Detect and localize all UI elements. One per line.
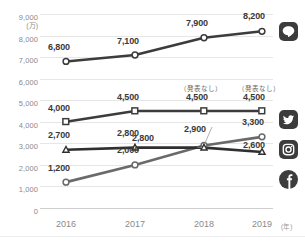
instagram-icon: [279, 140, 298, 159]
value-label-facebook-2019: 2,600: [243, 140, 265, 150]
marker-twitter-2019: [259, 108, 265, 114]
marker-instagram-2017: [132, 162, 138, 168]
y-axis-unit: (万): [4, 22, 38, 30]
marker-line-2017: [132, 52, 138, 58]
y-tick-5000: 5,000: [4, 100, 38, 108]
y-tick-6000: 6,000: [4, 79, 38, 87]
y-tick-3000: 3,000: [4, 143, 38, 151]
x-axis-unit: (年): [281, 221, 292, 231]
y-tick-1000: 1,000: [4, 186, 38, 194]
value-label-instagram-2017: 2,000: [117, 145, 139, 155]
y-tick-4000: 4,000: [4, 122, 38, 130]
y-tick-0: 0: [4, 208, 38, 216]
value-label-facebook-2016: 2,700: [48, 130, 70, 140]
y-tick-9000: 9,000: [4, 14, 38, 22]
marker-twitter-2016: [63, 119, 69, 125]
series-line-LINE: [66, 31, 262, 61]
x-tick-2016: 2016: [43, 219, 89, 229]
line-icon: [279, 22, 298, 41]
marker-line-2018: [201, 35, 207, 41]
callout-leader-facebook-2018: [197, 147, 202, 148]
value-label-line-2018: 7,900: [186, 18, 208, 28]
gridline-0: [40, 208, 273, 209]
marker-twitter-2018: [201, 108, 207, 114]
value-label-line-2016: 6,800: [48, 42, 70, 52]
value-label-instagram-2018: 2,900: [184, 124, 206, 134]
y-tick-7000: 7,000: [4, 57, 38, 65]
twitter-icon: [279, 110, 298, 129]
plot-area: [40, 14, 273, 208]
marker-instagram-2019: [259, 134, 265, 140]
y-tick-8000: 8,000: [4, 36, 38, 44]
value-label-line-2017: 7,100: [117, 36, 139, 46]
chart-container: 9,000 (万) 8,000 7,000 6,000 5,000 4,000 …: [0, 0, 305, 243]
value-label-facebook-2018: 2,800: [132, 133, 154, 143]
series-line-Facebook: [66, 148, 262, 152]
x-tick-2018: 2018: [181, 219, 227, 229]
value-label-instagram-2016: 1,200: [48, 163, 70, 173]
marker-twitter-2017: [132, 108, 138, 114]
series-line-Instagram: [66, 137, 262, 182]
marker-line-2016: [63, 59, 69, 65]
x-tick-2017: 2017: [112, 219, 158, 229]
marker-facebook-2016: [63, 147, 69, 153]
callout-leader-instagram-2018: [205, 127, 212, 143]
value-label-twitter-2019: 4,500: [243, 92, 265, 102]
value-label-instagram-2019: 3,300: [242, 117, 264, 127]
value-label-twitter-2017: 4,500: [117, 92, 139, 102]
marker-line-2019: [259, 28, 265, 34]
bottom-divider: [0, 236, 305, 237]
value-label-twitter-2016: 4,000: [48, 103, 70, 113]
series-line-Twitter: [66, 111, 262, 122]
marker-instagram-2016: [63, 179, 69, 185]
facebook-icon: [279, 170, 298, 189]
value-label-line-2019: 8,200: [243, 11, 265, 21]
x-tick-2019: 2019: [239, 219, 285, 229]
value-label-twitter-2018: 4,500: [186, 92, 208, 102]
y-tick-2000: 2,000: [4, 165, 38, 173]
series-lines: [40, 14, 273, 208]
